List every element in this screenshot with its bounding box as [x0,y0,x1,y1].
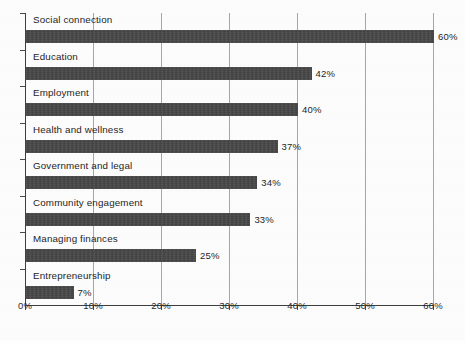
category-label: Government and legal [33,160,132,171]
bar-value-label: 34% [261,177,281,188]
y-axis-tick [20,50,25,51]
bar [26,249,196,262]
bar-group: Employment40% [26,86,433,123]
category-label: Social connection [33,14,112,25]
bar-group: Education42% [26,50,433,87]
bar [26,67,312,80]
category-label: Entrepreneurship [33,270,111,281]
bar-value-label: 7% [78,287,92,298]
bar-group: Government and legal34% [26,159,433,196]
bar [26,103,298,116]
y-axis-tick [20,269,25,270]
x-axis-tick-label: 50% [355,300,375,311]
category-label: Managing finances [33,233,118,244]
x-axis-tick-label: 20% [151,300,171,311]
bar [26,30,434,43]
category-label: Education [33,51,78,62]
x-axis-tick-label: 60% [423,300,443,311]
bar-chart: Social connection60%Education42%Employme… [0,0,465,341]
bar-group: Social connection60% [26,13,433,50]
bar-value-label: 25% [200,250,220,261]
x-axis-tick-label: 40% [287,300,307,311]
bar-group: Health and wellness37% [26,123,433,160]
bar [26,140,278,153]
x-axis-tick-label: 0% [18,300,32,311]
category-label: Community engagement [33,197,143,208]
bar-value-label: 40% [302,104,322,115]
bar-value-label: 42% [316,68,336,79]
bar-group: Managing finances25% [26,232,433,269]
y-axis-tick [20,196,25,197]
plot-area: Social connection60%Education42%Employme… [25,13,433,305]
category-label: Health and wellness [33,124,124,135]
y-axis-tick [20,159,25,160]
gridline [433,13,434,305]
y-axis-tick [20,232,25,233]
y-axis-tick [20,86,25,87]
bar-value-label: 37% [282,141,302,152]
bar [26,176,257,189]
bar-group: Community engagement33% [26,196,433,233]
bar-value-label: 33% [254,214,274,225]
y-axis-tick [20,13,25,14]
bar [26,213,250,226]
bar [26,286,74,299]
category-label: Employment [33,87,89,98]
y-axis-tick [20,123,25,124]
x-axis-tick-label: 10% [83,300,103,311]
x-axis-tick-label: 30% [219,300,239,311]
bar-value-label: 60% [438,31,458,42]
